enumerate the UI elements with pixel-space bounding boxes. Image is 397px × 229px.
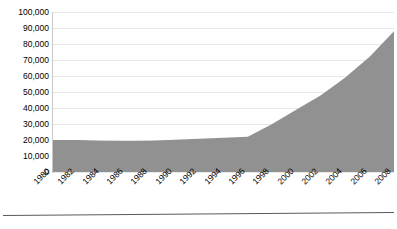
plot-area <box>53 12 394 172</box>
y-axis: 010,00020,00030,00040,00050,00060,00070,… <box>0 0 49 184</box>
y-axis-tick-label: 60,000 <box>0 72 49 81</box>
y-axis-tick-label: 90,000 <box>0 24 49 33</box>
y-axis-tick-label: 100,000 <box>0 8 49 17</box>
y-axis-tick-label: 50,000 <box>0 88 49 97</box>
y-axis-tick-label: 10,000 <box>0 152 49 161</box>
area-chart: 010,00020,00030,00040,00050,00060,00070,… <box>0 0 397 229</box>
y-axis-tick-label: 40,000 <box>0 104 49 113</box>
y-axis-tick-label: 70,000 <box>0 56 49 65</box>
area-series <box>53 12 394 172</box>
y-axis-tick-label: 30,000 <box>0 120 49 129</box>
x-axis: 1980198219841986198819901992199419961998… <box>0 172 397 220</box>
area-series-path <box>53 31 394 172</box>
y-axis-tick-label: 20,000 <box>0 136 49 145</box>
y-axis-tick-label: 80,000 <box>0 40 49 49</box>
